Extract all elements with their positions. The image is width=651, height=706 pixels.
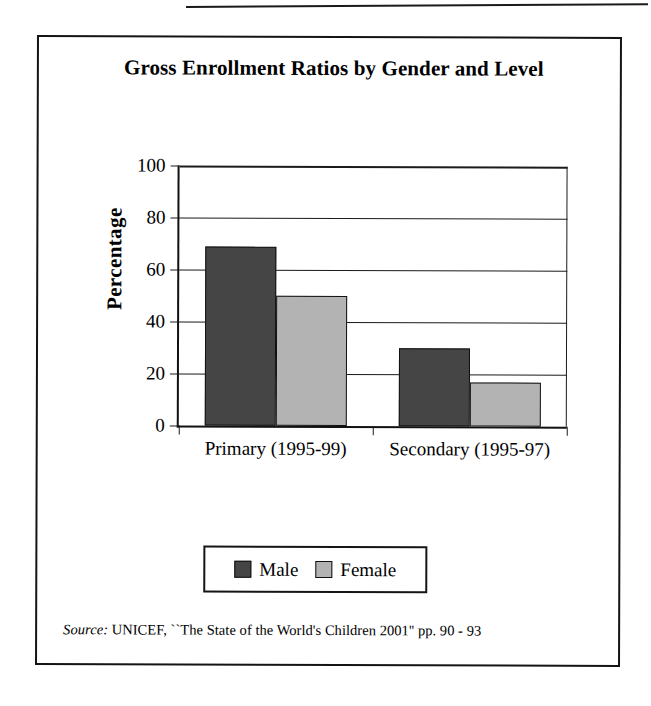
legend-entry-male: Male — [234, 558, 298, 580]
legend-label-male: Male — [259, 558, 298, 580]
x-category-label-1: Primary (1995-99) — [205, 438, 347, 460]
legend-swatch-female — [315, 561, 332, 578]
y-tick-40 — [170, 322, 179, 323]
y-tick-label-40: 40 — [119, 310, 165, 332]
gridline-80 — [179, 218, 567, 220]
bar-female-2 — [470, 382, 541, 426]
x-tick-1 — [373, 426, 374, 435]
plot-inner: 100806040200Primary (1995-99)Secondary (… — [179, 166, 568, 427]
source-note: Source: UNICEF, ``The State of the World… — [63, 621, 481, 639]
y-tick-label-0: 0 — [119, 414, 165, 436]
legend-swatch-male — [234, 561, 251, 578]
grid-right-edge — [566, 167, 568, 427]
legend-label-female: Female — [340, 559, 396, 581]
page-top-rule — [186, 3, 648, 8]
y-tick-label-80: 80 — [119, 206, 165, 228]
x-tick-2 — [567, 427, 568, 436]
y-tick-60 — [170, 270, 179, 271]
y-tick-0 — [170, 426, 179, 427]
chart-legend: MaleFemale — [203, 546, 427, 594]
figure-frame: Gross Enrollment Ratios by Gender and Le… — [35, 35, 622, 667]
bar-male-2 — [399, 348, 470, 426]
source-label: Source: — [63, 621, 108, 637]
x-tick-0 — [179, 426, 180, 435]
y-tick-label-20: 20 — [119, 362, 165, 384]
gridline-100 — [180, 166, 568, 169]
chart-title: Gross Enrollment Ratios by Gender and Le… — [99, 54, 569, 82]
source-text: UNICEF, ``The State of the World's Child… — [108, 621, 481, 638]
bar-female-1 — [276, 296, 347, 426]
y-tick-label-60: 60 — [119, 258, 165, 280]
y-tick-100 — [171, 166, 180, 167]
y-tick-label-100: 100 — [120, 154, 166, 176]
y-tick-20 — [170, 374, 179, 375]
y-tick-80 — [170, 218, 179, 219]
legend-entry-female: Female — [315, 558, 396, 580]
plot-area: 100806040200Primary (1995-99)Secondary (… — [177, 166, 568, 429]
bar-male-1 — [205, 246, 277, 426]
x-category-label-2: Secondary (1995-97) — [389, 438, 550, 461]
